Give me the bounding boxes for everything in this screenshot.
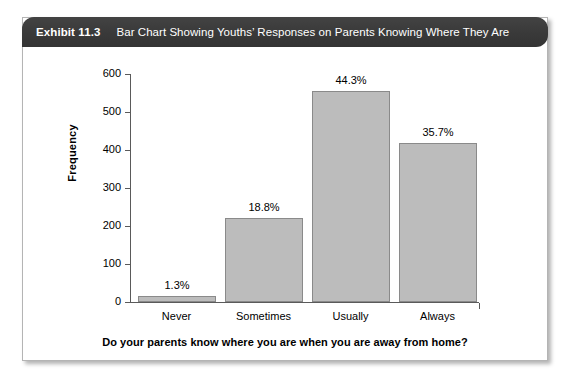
y-axis-tick-label: 400 [103, 143, 121, 155]
y-axis-tick: 500 [125, 112, 131, 113]
bar-value-label: 18.8% [225, 201, 303, 213]
y-axis-tick: 100 [125, 264, 131, 265]
bar [399, 143, 477, 302]
x-axis-title: Do your parents know where you are when … [22, 336, 548, 348]
chart-axes: 0100200300400500600 1.3%18.8%44.3%35.7% … [22, 47, 548, 361]
exhibit-header-bar: Exhibit 11.3 Bar Chart Showing Youths’ R… [22, 17, 548, 47]
x-axis-line [130, 302, 479, 303]
x-axis-category-label: Sometimes [220, 310, 307, 322]
y-axis-tick-label: 300 [103, 181, 121, 193]
x-axis-category-label: Always [394, 310, 481, 322]
y-axis-tick-label: 0 [115, 295, 121, 307]
bar [312, 91, 390, 302]
exhibit-number: Exhibit 11.3 [36, 26, 100, 38]
y-axis-tick-label: 100 [103, 257, 121, 269]
chart-plot-region: Frequency 0100200300400500600 1.3%18.8%4… [22, 47, 548, 361]
x-axis-category-label: Usually [307, 310, 394, 322]
y-axis-tick: 200 [125, 226, 131, 227]
exhibit-caption: Bar Chart Showing Youths’ Responses on P… [116, 26, 509, 38]
y-axis-tick: 600 [125, 74, 131, 75]
y-axis-tick: 0 [125, 302, 131, 303]
bar-value-label: 35.7% [399, 126, 477, 138]
y-axis-tick-label: 500 [103, 105, 121, 117]
bar [138, 296, 216, 302]
x-axis-category-label: Never [133, 310, 220, 322]
y-axis-tick-label: 600 [103, 67, 121, 79]
x-axis-end-tick [479, 303, 480, 309]
y-axis-tick-label: 200 [103, 219, 121, 231]
screenshot-root: Exhibit 11.3 Bar Chart Showing Youths’ R… [0, 0, 574, 382]
bar [225, 218, 303, 302]
bar-value-label: 44.3% [312, 74, 390, 86]
bar-value-label: 1.3% [138, 279, 216, 291]
y-axis-tick: 400 [125, 150, 131, 151]
y-axis-tick: 300 [125, 188, 131, 189]
